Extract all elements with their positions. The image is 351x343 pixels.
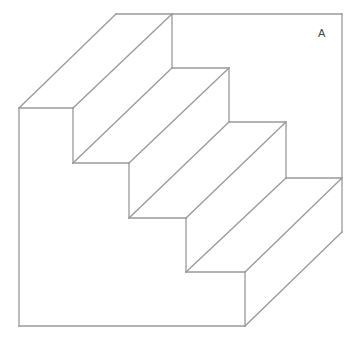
top-left-diagonal bbox=[19, 14, 116, 108]
diagonal-4-top bbox=[245, 178, 342, 272]
staircase-diagram: A bbox=[0, 0, 351, 343]
diagonal-2-top bbox=[129, 68, 229, 163]
diagonal-1-top bbox=[73, 14, 172, 108]
diagonal-3-top bbox=[186, 122, 286, 218]
depth-diagonals bbox=[73, 14, 342, 272]
back-steps bbox=[172, 14, 342, 178]
diagonal-1-bottom bbox=[73, 68, 172, 163]
corner-label: A bbox=[318, 27, 326, 39]
diagonal-3-bottom bbox=[186, 178, 286, 272]
diagonal-2-bottom bbox=[129, 122, 229, 218]
front-steps bbox=[19, 108, 245, 326]
outer-frame bbox=[19, 14, 342, 326]
bottom-right-diagonal bbox=[245, 232, 342, 326]
